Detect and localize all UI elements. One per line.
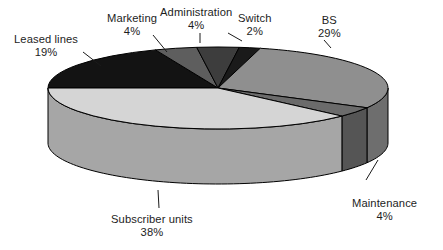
- pie-top-slices: [48, 47, 388, 129]
- pie-label-value: 4%: [107, 25, 157, 38]
- pie-label-name: Switch: [238, 12, 272, 25]
- leader-line: [366, 160, 378, 180]
- pie-label-value: 2%: [238, 25, 272, 38]
- pie-label-name: Subscriber units: [111, 213, 193, 226]
- pie-label-maintenance: Maintenance4%: [352, 197, 417, 223]
- pie-label-name: Marketing: [107, 12, 157, 25]
- pie-label-switch: Switch2%: [238, 12, 272, 38]
- pie-label-name: Maintenance: [352, 197, 417, 210]
- pie-label-value: 38%: [111, 226, 193, 239]
- pie-side-maintenance: [342, 108, 367, 171]
- pie-label-name: Administration: [160, 6, 232, 19]
- pie-label-value: 4%: [160, 19, 232, 32]
- pie-label-administration: Administration4%: [160, 6, 232, 32]
- pie-label-marketing: Marketing4%: [107, 12, 157, 38]
- pie-label-name: Leased lines: [14, 33, 78, 46]
- pie-chart: Leased lines19%Marketing4%Administration…: [0, 0, 443, 250]
- pie-label-subscriber-units: Subscriber units38%: [111, 213, 193, 239]
- pie-label-value: 4%: [352, 210, 417, 223]
- pie-label-name: BS: [318, 14, 341, 27]
- leader-line: [158, 190, 159, 208]
- pie-label-leased-lines: Leased lines19%: [14, 33, 78, 59]
- pie-label-bs: BS29%: [318, 14, 341, 40]
- leader-line: [324, 40, 331, 48]
- pie-label-value: 29%: [318, 27, 341, 40]
- pie-label-value: 19%: [14, 46, 78, 59]
